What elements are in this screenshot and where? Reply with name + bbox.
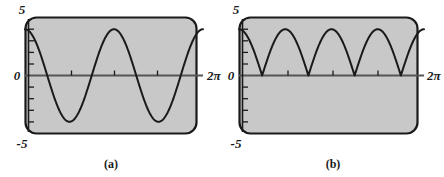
y-max-label-b: 5 <box>233 2 240 17</box>
y-min-label-a: -5 <box>17 136 28 151</box>
y-max-label-a: 5 <box>19 2 26 17</box>
panel-b-svg: 5 0 -5 2π (b) <box>222 0 444 177</box>
y-min-label-b: -5 <box>231 136 242 151</box>
x-end-label-a: 2π <box>206 68 222 83</box>
chart-panel-a: 5 0 -5 2π (a) <box>0 0 222 177</box>
panel-caption-a: (a) <box>104 157 118 171</box>
x-end-label-b: 2π <box>426 68 442 83</box>
chart-panel-b: 5 0 -5 2π (b) <box>222 0 444 177</box>
panel-caption-b: (b) <box>326 157 341 171</box>
y-zero-label-a: 0 <box>14 68 21 83</box>
figure-root: 5 0 -5 2π (a) <box>0 0 444 177</box>
y-zero-label-b: 0 <box>228 68 235 83</box>
panel-a-svg: 5 0 -5 2π (a) <box>0 0 222 177</box>
